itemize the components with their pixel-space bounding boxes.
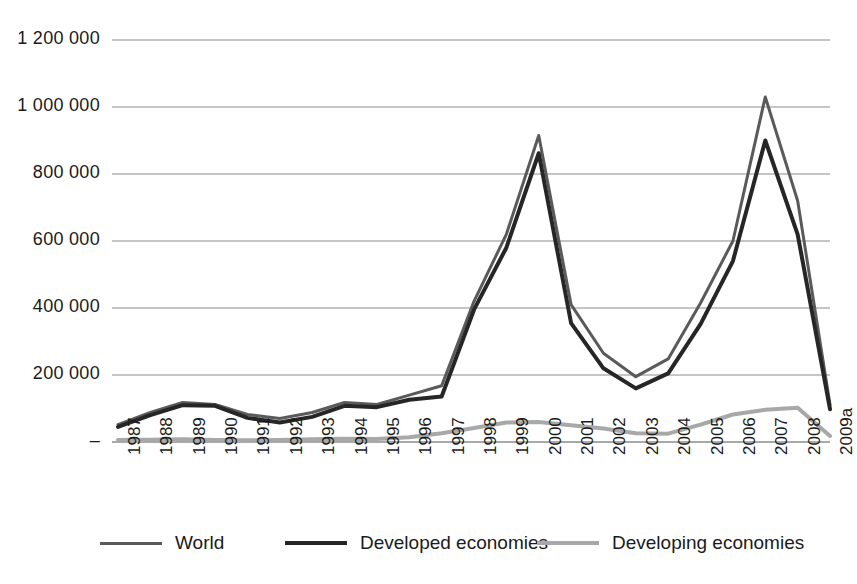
x-axis-tick-label: 2008 [805, 417, 825, 455]
x-axis-tick-label: 2006 [740, 417, 760, 455]
y-axis-tick-label: – [90, 430, 100, 451]
x-axis-tick-label: 1989 [190, 417, 210, 455]
x-axis-tick-label: 1997 [449, 417, 469, 455]
legend-item: Developed economies [285, 528, 548, 558]
x-axis-tick-label: 1998 [481, 417, 501, 455]
series-line [118, 141, 830, 427]
y-axis-tick-label: 200 000 [33, 363, 100, 384]
legend-label: Developing economies [612, 532, 804, 554]
x-axis-tick-label: 1988 [157, 417, 177, 455]
x-axis-tick-label: 2000 [546, 417, 566, 455]
x-axis-tick-label: 2007 [772, 417, 792, 455]
x-axis-tick-label: 2005 [708, 417, 728, 455]
legend-item: Developing economies [537, 528, 804, 558]
x-axis-tick-label: 2002 [610, 417, 630, 455]
chart-legend: WorldDeveloped economiesDeveloping econo… [0, 528, 839, 568]
x-axis-tick-label: 1990 [222, 417, 242, 455]
legend-line-swatch [100, 542, 162, 545]
y-axis-tick-label: 800 000 [33, 162, 100, 183]
legend-label: World [175, 532, 224, 554]
x-axis-tick-label: 1993 [319, 417, 339, 455]
x-axis-tick-label: 2009a [837, 408, 857, 455]
x-axis-tick-label: 1992 [287, 417, 307, 455]
x-axis-tick-label: 2001 [578, 417, 598, 455]
x-axis-tick-label: 2004 [675, 417, 695, 455]
legend-line-swatch [285, 541, 347, 545]
x-axis-tick-label: 1991 [254, 417, 274, 455]
x-axis-tick-label: 1996 [416, 417, 436, 455]
y-axis-tick-label: 400 000 [33, 296, 100, 317]
x-axis-tick-label: 1999 [513, 417, 533, 455]
y-axis-tick-label: 1 200 000 [17, 28, 100, 49]
legend-line-swatch [537, 541, 599, 545]
x-axis-tick-label: 1987 [125, 417, 145, 455]
y-axis-tick-label: 1 000 000 [17, 95, 100, 116]
y-axis-tick-label: 600 000 [33, 229, 100, 250]
x-axis-tick-label: 1995 [384, 417, 404, 455]
legend-label: Developed economies [360, 532, 548, 554]
legend-item: World [100, 528, 224, 558]
x-axis-tick-label: 2003 [643, 417, 663, 455]
x-axis-tick-label: 1994 [352, 417, 372, 455]
